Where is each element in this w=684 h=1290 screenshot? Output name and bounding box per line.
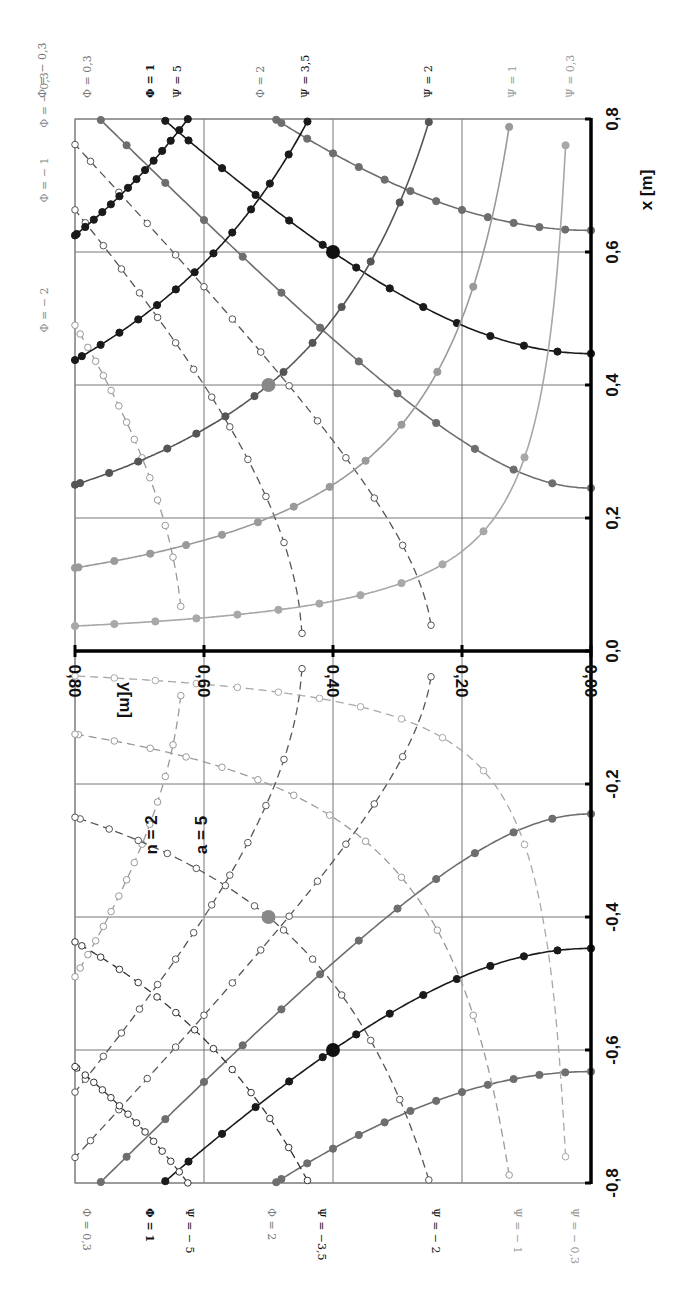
curve-label-bottom: Φ = 0,3 — [80, 1208, 93, 1251]
x-tick-label: 0,6 — [603, 240, 622, 264]
curve-label-top: Ψ = 3,5 — [299, 55, 312, 98]
curve-potential — [72, 665, 306, 1095]
curve-label-bottom: Ψ = − 0,3 — [568, 1208, 581, 1264]
curve-potential — [273, 1068, 595, 1186]
highlight-point — [326, 1043, 340, 1057]
y-axis-title: y[m] — [116, 682, 135, 718]
curve-stream — [72, 673, 569, 1160]
x-tick-label: -0,6 — [603, 1035, 622, 1064]
curve-stream — [72, 731, 513, 1179]
curve-label-top: Φ = 1 — [144, 64, 157, 98]
highlight-point — [326, 245, 340, 259]
x-tick-label: 0,4 — [603, 373, 622, 397]
flow-net-chart: -0,8-0,6-0,4-0,20,00,20,40,60,80,000,200… — [0, 0, 684, 1290]
curve-stream — [72, 939, 311, 1184]
curve-labels: Φ = − 0,3Φ = 0,3Φ = 1Ψ = 5Φ = 2Ψ = 3,5Ψ … — [36, 43, 581, 1265]
y-tick-label: 0,80 — [65, 664, 84, 697]
x-tick-label: 0,2 — [603, 506, 622, 530]
curve-label-bottom: Ψ = − 1 — [511, 1208, 524, 1254]
curve-potential — [72, 207, 306, 637]
curve-label-bottom: Φ = 2 — [265, 1208, 278, 1240]
curve-stream — [72, 1063, 191, 1186]
highlight-point — [262, 910, 276, 924]
curve-stream — [71, 118, 311, 364]
x-tick-label: -0,8 — [603, 1168, 622, 1197]
x-axis-title: x [m] — [637, 170, 656, 211]
curve-stream — [71, 142, 569, 630]
annotation-a: a = 5 — [192, 816, 211, 854]
curve-label-bottom: Φ = 1 — [143, 1208, 156, 1242]
curve-potential — [162, 117, 595, 357]
curve-label-top: Ψ = 5 — [171, 65, 184, 98]
curve-label-bottom: Ψ = − 5 — [183, 1208, 196, 1254]
y-tick-label: 0,60 — [194, 664, 213, 697]
y-tick-label: 0,00 — [581, 664, 600, 697]
curve-potential — [273, 116, 595, 234]
curve-stream — [71, 123, 512, 571]
curve-label-top: Ψ = 2 — [422, 65, 435, 98]
y-tick-label: 0,20 — [452, 664, 471, 697]
curve-label-bottom: Ψ = − 2 — [429, 1208, 442, 1254]
curve-label-top: Ψ = 0,3 — [564, 55, 577, 98]
curve-label-top: Φ = 2 — [254, 66, 267, 98]
curve-stream — [71, 115, 191, 238]
curve-potential — [162, 945, 595, 1185]
curve-potential — [97, 116, 594, 491]
x-tick-label: 0,0 — [603, 639, 622, 663]
x-tick-label: 0,8 — [603, 107, 622, 131]
curve-label-top: Ψ = 1 — [506, 65, 519, 98]
curve-label-left: Φ = − 0,3 — [38, 72, 51, 127]
curve-label-bottom: Ψ = −3,5 — [315, 1208, 328, 1261]
highlight-point — [262, 378, 276, 392]
curve-potential — [97, 810, 594, 1185]
annotation-n: n = 2 — [142, 815, 161, 854]
y-tick-label: 0,40 — [323, 664, 342, 697]
curve-label-left: Φ = − 1 — [38, 158, 51, 203]
curve-label-left: Φ = − 2 — [38, 288, 51, 333]
x-tick-label: -0,4 — [603, 902, 622, 932]
curve-label-top: Φ = 0,3 — [81, 55, 94, 98]
curve-stream — [72, 814, 432, 1183]
curve-stream — [71, 118, 432, 488]
x-tick-label: -0,2 — [603, 769, 622, 798]
